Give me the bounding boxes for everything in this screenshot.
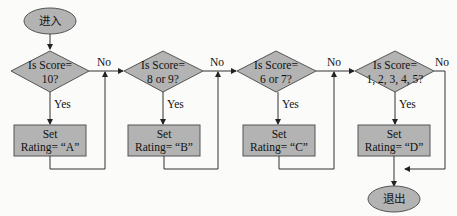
action-node-4: Set Rating= “D”	[358, 125, 430, 156]
action-3-line1: Set	[272, 128, 288, 140]
decision-2-line2: 8 or 9?	[147, 73, 179, 85]
decision-4-line2: 1, 2, 3, 4, 5?	[367, 73, 424, 86]
decision-4-line1: Is Score=	[373, 59, 417, 71]
no-label-4: No	[435, 56, 449, 68]
action-4-line1: Set	[387, 128, 403, 140]
decision-node-2: Is Score= 8 or 9?	[124, 51, 203, 92]
action-node-2: Set Rating= “B”	[128, 125, 200, 156]
yes-label-1: Yes	[54, 98, 71, 110]
yes-label-4: Yes	[399, 98, 416, 110]
decision-2-line1: Is Score=	[141, 59, 185, 71]
flowchart-canvas: 进入 Is Score= 10? Is Score= 8 or 9? Is Sc…	[0, 0, 457, 216]
action-node-3: Set Rating= “C”	[243, 125, 315, 156]
decision-node-3: Is Score= 6 or 7?	[237, 51, 316, 92]
decision-3-line2: 6 or 7?	[260, 73, 292, 85]
end-label: 退出	[383, 192, 405, 205]
no-label-1: No	[97, 56, 111, 68]
no-label-2: No	[210, 56, 224, 68]
action-node-1: Set Rating= “A”	[14, 125, 86, 156]
yes-label-2: Yes	[167, 98, 184, 110]
action-3-line2: Rating= “C”	[250, 141, 308, 154]
decision-1-line1: Is Score=	[28, 59, 72, 71]
action-4-line2: Rating= “D”	[365, 141, 424, 154]
decision-node-4: Is Score= 1, 2, 3, 4, 5?	[355, 51, 434, 92]
decision-3-line1: Is Score=	[254, 59, 298, 71]
no-label-3: No	[327, 56, 341, 68]
action-1-line2: Rating= “A”	[21, 141, 80, 154]
action-2-line2: Rating= “B”	[135, 141, 193, 154]
action-1-line1: Set	[43, 128, 59, 140]
decision-node-1: Is Score= 10?	[11, 51, 89, 92]
yes-label-3: Yes	[282, 98, 299, 110]
end-node: 退出	[368, 186, 420, 212]
decision-1-line2: 10?	[42, 73, 59, 85]
start-label: 进入	[39, 15, 62, 27]
action-2-line1: Set	[157, 128, 173, 140]
start-node: 进入	[24, 8, 76, 34]
